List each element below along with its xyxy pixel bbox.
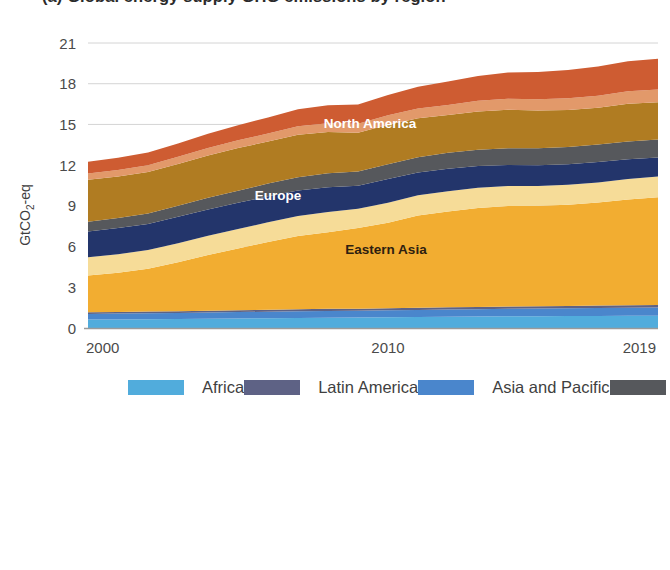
y-tick-label: 3 [68, 279, 76, 296]
legend-swatch-icon [244, 380, 300, 395]
legend-swatch-icon [610, 380, 666, 395]
annotation-north-america: North America [324, 116, 417, 131]
legend-swatch-icon [418, 380, 474, 395]
stacked-area-chart: 036912151821 200020102019 North AmericaE… [0, 0, 670, 370]
y-tick-label: 0 [68, 320, 76, 337]
legend-swatch-icon [128, 380, 184, 395]
legend-item[interactable]: Asia and Pacific [418, 372, 609, 402]
legend-label: Latin America [318, 379, 418, 396]
annotation-eastern-asia: Eastern Asia [345, 242, 427, 257]
legend-label: Asia and Pacific [492, 379, 609, 396]
legend-item[interactable]: Africa [128, 372, 244, 402]
y-tick-label: 9 [68, 197, 76, 214]
x-tick-label: 2010 [371, 339, 404, 356]
y-tick-label: 15 [59, 116, 76, 133]
annotation-europe: Europe [255, 188, 302, 203]
x-axis-tick-labels: 200020102019 [86, 339, 656, 356]
area-series-group [88, 59, 658, 328]
y-tick-label: 6 [68, 238, 76, 255]
y-tick-label: 18 [59, 75, 76, 92]
y-axis-tick-labels: 036912151821 [59, 35, 76, 337]
y-axis-title: GtCO2-eq [17, 184, 36, 246]
y-tick-label: 21 [59, 35, 76, 52]
chart-legend: AfricaLatin AmericaAsia and PacificMiddl… [0, 372, 670, 570]
legend-item[interactable]: Latin America [244, 372, 418, 402]
x-tick-label: 2019 [623, 339, 656, 356]
legend-item[interactable]: Middle East [610, 372, 670, 402]
x-tick-label: 2000 [86, 339, 119, 356]
figure-container: (a) Global energy supply GHG emissions b… [0, 0, 670, 570]
legend-label: Africa [202, 379, 244, 396]
y-tick-label: 12 [59, 157, 76, 174]
chart-plot-area: 036912151821 200020102019 North AmericaE… [0, 0, 670, 370]
